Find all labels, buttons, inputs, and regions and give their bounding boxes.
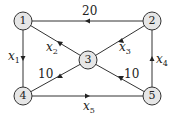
node-1-label: 1 [14,12,32,30]
arrow-up-left-icon [57,41,63,47]
node-4-label: 4 [14,87,32,105]
edge-label-2-1: 20 [82,5,97,17]
node-2-label: 2 [143,12,161,30]
edge-label-4-5: x5 [83,100,95,114]
edge-label-1-4: x1 [8,50,20,65]
edge-label-2-3: x3 [119,41,131,56]
edge-label-5-3: 10 [124,68,139,80]
network-flow-diagram: 1 2 3 4 5 20 x2 x3 x1 x4 10 10 x5 [0,0,173,114]
edge-label-3-4: 10 [38,68,53,80]
arrow-down-icon [21,56,26,61]
node-3-label: 3 [79,51,97,69]
edge-label-3-1: x2 [46,41,58,56]
arrow-right-icon [85,94,90,99]
arrow-left-icon [85,19,90,24]
edge-label-5-2: x4 [156,53,168,68]
arrow-up-icon [150,56,155,61]
node-5-label: 5 [143,87,161,105]
